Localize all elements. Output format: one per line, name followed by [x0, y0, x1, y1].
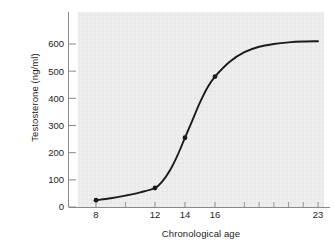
data-point: [183, 135, 188, 140]
y-tick-label: 0: [59, 201, 64, 212]
y-tick-label: 100: [48, 174, 64, 185]
x-tick-label: 23: [313, 209, 324, 220]
x-tick-label: 16: [210, 209, 221, 220]
x-tick-label: 8: [93, 209, 98, 220]
data-point: [153, 186, 158, 191]
y-tick-label: 500: [48, 66, 64, 77]
x-tick-label: 14: [180, 209, 191, 220]
chart-figure: Testosterone (ng/ml) Chronological age 0…: [0, 0, 334, 245]
data-point: [94, 198, 99, 203]
y-tick-label: 400: [48, 93, 64, 104]
y-tick-label: 200: [48, 147, 64, 158]
y-tick-label: 300: [48, 120, 64, 131]
plot-area-background: [78, 12, 324, 207]
x-tick-label: 12: [150, 209, 161, 220]
plot-canvas: 0100200300400500600 812141623: [0, 0, 334, 245]
y-axis-ticks: 0100200300400500600: [48, 38, 76, 212]
data-point: [213, 74, 218, 79]
y-tick-label: 600: [48, 38, 64, 49]
